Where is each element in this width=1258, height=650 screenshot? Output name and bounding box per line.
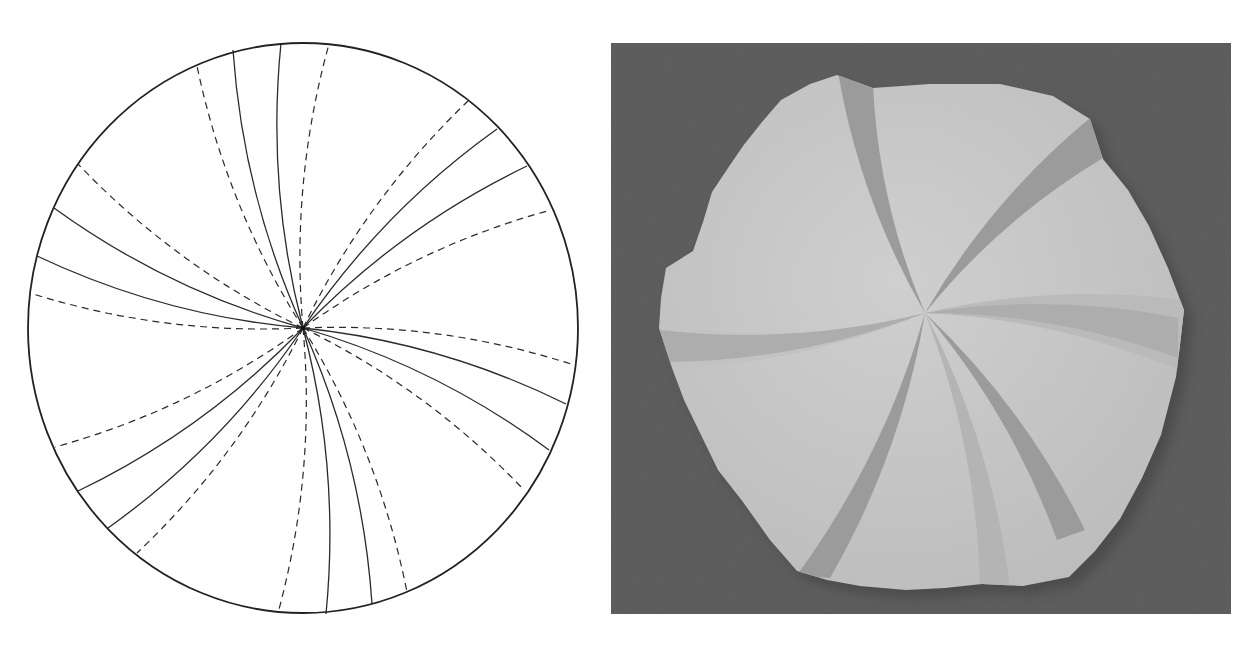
crease-pattern-diagram: Crease pattern <box>0 0 606 650</box>
crease-pattern-svg <box>0 0 606 650</box>
mountain-crease-line <box>303 129 497 328</box>
mountain-crease-line <box>54 208 303 328</box>
mountain-crease-line <box>303 166 527 328</box>
folded-paper-photo-svg <box>606 0 1258 650</box>
valley-crease-line <box>300 44 329 328</box>
mountain-crease-line <box>303 328 330 614</box>
crease-center-vertex <box>301 326 305 330</box>
mountain-crease-line <box>78 328 303 491</box>
valley-crease-line <box>55 328 303 447</box>
valley-crease-line <box>303 210 551 328</box>
valley-crease-line <box>303 328 524 490</box>
mountain-crease-line <box>108 328 303 528</box>
mountain-crease-line <box>303 328 549 450</box>
valley-crease-line <box>278 328 306 613</box>
mountain-crease-line <box>277 43 303 328</box>
mountain-crease-line <box>303 328 566 404</box>
mountain-crease-line <box>37 256 303 328</box>
folded-paper-photo: Folded paper photograph <box>606 0 1258 650</box>
valley-crease-line <box>303 328 407 592</box>
mountain-crease-line <box>233 50 303 328</box>
